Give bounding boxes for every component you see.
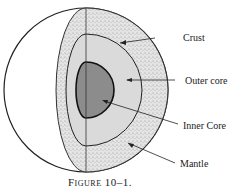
- label-mantle: Mantle: [180, 158, 208, 169]
- label-outer-core: Outer core: [185, 75, 227, 86]
- cutaway-layers: [56, 8, 168, 172]
- label-crust: Crust: [183, 32, 205, 43]
- figure-caption: Figure 10–1.: [0, 176, 200, 188]
- label-inner-core: Inner Core: [183, 120, 226, 131]
